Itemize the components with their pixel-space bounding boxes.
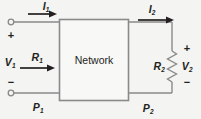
input-polarity-plus: +	[8, 30, 14, 41]
label-power-p2-sub: 2	[150, 108, 154, 115]
label-voltage-v2-base: V	[182, 60, 189, 72]
network-box-label: Network	[75, 55, 114, 66]
label-resistance-r2-sub: 2	[161, 66, 165, 73]
label-current-i1-sub: 1	[46, 6, 50, 13]
label-current-i2: I2	[149, 4, 156, 15]
resistance-arrow-r1-head	[47, 65, 55, 72]
label-resistance-r1: R1	[31, 52, 42, 63]
label-voltage-v1: V1	[5, 57, 16, 68]
label-voltage-v2-sub: 2	[189, 66, 193, 73]
label-voltage-v1-base: V	[5, 56, 12, 68]
output-polarity-plus: +	[184, 43, 190, 54]
resistor-r2-zigzag	[168, 51, 177, 82]
label-power-p1: P1	[33, 102, 44, 113]
label-power-p1-sub: 1	[40, 107, 44, 114]
input-terminal-top-circle	[8, 19, 14, 25]
label-resistance-r1-sub: 1	[39, 57, 43, 64]
label-current-i1: I1	[43, 1, 50, 12]
input-terminal-bottom-circle	[8, 90, 14, 96]
current-arrow-i1-head	[49, 11, 57, 18]
label-resistance-r2: R2	[153, 61, 164, 72]
label-voltage-v2: V2	[182, 61, 193, 72]
label-resistance-r2-base: R	[153, 60, 161, 72]
label-power-p2-base: P	[143, 102, 150, 114]
input-polarity-minus: −	[8, 77, 14, 88]
label-power-p1-base: P	[33, 101, 40, 113]
label-current-i2-sub: 2	[152, 9, 156, 16]
label-power-p2: P2	[143, 103, 154, 114]
label-resistance-r1-base: R	[31, 51, 39, 63]
circuit-diagram-figure: Network I1 V1 R1 P1 + − I2 R2 V2 + − P2	[0, 0, 201, 119]
output-polarity-minus: −	[184, 77, 190, 88]
label-voltage-v1-sub: 1	[12, 62, 16, 69]
